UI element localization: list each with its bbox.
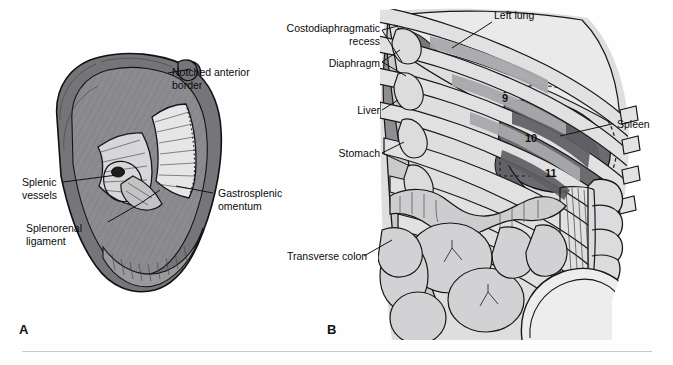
rib-number-9: 9 — [502, 92, 508, 104]
anatomy-figure: Notched anterior border Splenic vessels … — [0, 0, 673, 365]
label-notched-anterior-border: Notched anterior border — [172, 66, 250, 91]
gastrosplenic-omentum-shape — [152, 104, 196, 198]
figure-bottom-rule — [22, 351, 652, 352]
figure-artwork — [0, 0, 673, 365]
label-splenic-vessels: Splenic vessels — [22, 176, 57, 201]
label-splenorenal-ligament: Splenorenal ligament — [26, 222, 82, 247]
label-spleen: Spleen — [617, 118, 650, 131]
rib-number-10: 10 — [525, 132, 537, 144]
label-gastrosplenic-omentum: Gastrosplenic omentum — [218, 187, 282, 212]
label-transverse-colon: Transverse colon — [287, 250, 367, 263]
label-diaphragm: Diaphragm — [316, 57, 380, 70]
rib-number-11: 11 — [545, 167, 557, 179]
panel-a-letter: A — [19, 322, 29, 337]
panel-b-letter: B — [327, 322, 337, 337]
label-stomach: Stomach — [323, 147, 380, 160]
label-liver: Liver — [342, 104, 380, 117]
label-costodiaphragmatic-recess: Costodiaphragmatic recess — [274, 22, 380, 47]
label-left-lung: Left lung — [494, 9, 534, 22]
panel-b-artwork — [364, 6, 640, 344]
